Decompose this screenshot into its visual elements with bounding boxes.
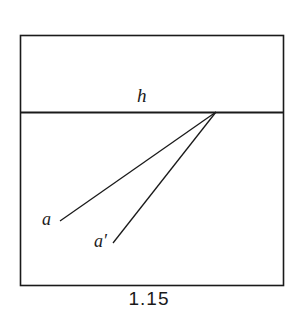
point-a-prime-label: a′ — [94, 232, 107, 250]
figure-caption: 1.15 — [0, 288, 298, 310]
ray-a — [60, 112, 216, 221]
figure-container: h a a′ 1.15 — [0, 0, 298, 320]
figure-drawing — [0, 0, 298, 320]
horizon-label: h — [137, 86, 147, 105]
point-a-label: a — [42, 210, 51, 228]
ray-a-prime — [113, 112, 216, 243]
picture-frame — [21, 36, 284, 286]
